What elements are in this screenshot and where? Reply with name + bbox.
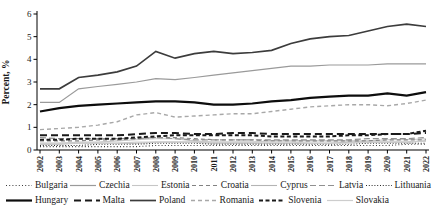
chart-legend: BulgariaCzechiaEstoniaCroatiaCyprusLatvi… [0,179,437,207]
x-tick-label: 2015 [287,156,296,172]
x-tick-label: 2007 [133,156,142,172]
legend-row-1: BulgariaCzechiaEstoniaCroatiaCyprusLatvi… [0,179,437,192]
series-line-hungary [40,92,426,111]
legend-label-slovenia: Slovenia [288,194,321,207]
legend-line-sample-romania [191,196,217,205]
x-tick-label: 2012 [229,156,238,172]
x-tick-label: 2017 [326,156,335,172]
x-tick-label: 2022 [422,156,431,172]
legend-item-estonia: Estonia [132,179,190,192]
legend-label-slovakia: Slovakia [356,194,389,207]
series-line-poland [40,24,426,89]
x-tick-label: 2020 [383,156,392,172]
legend-line-sample-estonia [132,181,158,190]
legend-item-cyprus: Cyprus [251,179,307,192]
x-tick-label: 2005 [94,156,103,172]
legend-item-hungary: Hungary [6,194,68,207]
x-tick-label: 2002 [36,156,45,172]
legend-label-bulgaria: Bulgaria [35,179,68,192]
y-tick-label: 1 [27,122,32,132]
legend-label-hungary: Hungary [35,194,68,207]
legend-label-poland: Poland [159,194,185,207]
x-tick-label: 2016 [306,156,315,172]
x-tick-label: 2010 [190,156,199,172]
legend-label-romania: Romania [220,194,254,207]
legend-item-bulgaria: Bulgaria [6,179,68,192]
legend-item-romania: Romania [191,194,254,207]
x-tick-label: 2019 [364,156,373,172]
legend-label-estonia: Estonia [161,179,190,192]
legend-label-croatia: Croatia [221,179,249,192]
series-line-bulgaria [40,144,426,146]
y-tick-label: 5 [27,32,32,42]
y-axis-title: Percent, % [1,59,11,104]
legend-line-sample-bulgaria [6,181,32,190]
chart-svg: 0123456200220032004200520062007200820092… [0,0,437,178]
legend-line-sample-slovakia [327,196,353,205]
legend-item-czechia: Czechia [70,179,130,192]
legend-line-sample-hungary [6,196,32,205]
x-tick-label: 2009 [171,156,180,172]
legend-item-croatia: Croatia [192,179,249,192]
y-tick-label: 4 [27,54,32,64]
legend-label-malta: Malta [103,194,125,207]
x-tick-label: 2006 [113,156,122,172]
legend-line-sample-latvia [310,181,336,190]
legend-item-slovakia: Slovakia [327,194,389,207]
x-tick-label: 2021 [403,156,412,172]
legend-line-sample-lithuania [366,181,392,190]
x-tick-label: 2011 [210,156,219,172]
legend-line-sample-poland [130,196,156,205]
x-tick-label: 2018 [345,156,354,172]
legend-line-sample-czechia [70,181,96,190]
x-tick-label: 2004 [75,156,84,172]
y-tick-label: 2 [27,100,32,110]
legend-item-poland: Poland [130,194,185,207]
legend-row-2: HungaryMaltaPolandRomaniaSloveniaSlovaki… [0,194,437,207]
legend-item-malta: Malta [74,194,125,207]
legend-label-cyprus: Cyprus [280,179,307,192]
legend-item-latvia: Latvia [310,179,363,192]
legend-line-sample-slovenia [259,196,285,205]
y-tick-label: 0 [27,145,32,155]
legend-line-sample-cyprus [251,181,277,190]
y-tick-label: 6 [27,9,32,19]
line-chart: 0123456200220032004200520062007200820092… [0,0,437,178]
legend-item-slovenia: Slovenia [259,194,321,207]
legend-label-czechia: Czechia [99,179,130,192]
x-tick-label: 2008 [152,156,161,172]
legend-item-lithuania: Lithuania [366,179,431,192]
legend-line-sample-malta [74,196,100,205]
legend-label-latvia: Latvia [339,179,363,192]
legend-label-lithuania: Lithuania [395,179,431,192]
x-tick-label: 2013 [248,156,257,172]
x-tick-label: 2003 [55,156,64,172]
legend-line-sample-croatia [192,181,218,190]
x-tick-label: 2014 [268,156,277,172]
y-tick-label: 3 [27,77,32,87]
